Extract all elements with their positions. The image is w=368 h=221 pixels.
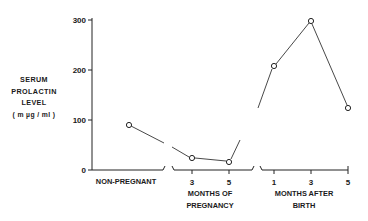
group-label-pregnancy: PREGNANCY bbox=[186, 201, 233, 210]
x-axis-segment-pregnancy bbox=[172, 166, 254, 170]
data-point bbox=[271, 63, 276, 68]
y-tick-label: 0 bbox=[82, 166, 87, 175]
y-tick-label: 300 bbox=[73, 16, 87, 25]
data-point bbox=[308, 18, 313, 23]
data-point bbox=[189, 155, 194, 160]
x-tick-label: 3 bbox=[309, 178, 314, 187]
y-tick-label: 200 bbox=[73, 66, 87, 75]
group-label-after-birth: MONTHS AFTER bbox=[275, 189, 334, 198]
group-label-nonpregnant: NON-PREGNANT bbox=[96, 177, 157, 186]
chart-plot: 300 200 100 0 3 5 1 3 5 NON-PREGNANT MON… bbox=[0, 0, 368, 221]
x-tick-label: 5 bbox=[346, 178, 351, 187]
data-series-line bbox=[131, 23, 347, 161]
x-axis-segment-after-birth bbox=[260, 166, 348, 170]
group-label-after-birth: BIRTH bbox=[293, 201, 316, 210]
data-point bbox=[226, 159, 231, 164]
x-tick-label: 1 bbox=[272, 178, 277, 187]
data-point bbox=[126, 122, 131, 127]
group-label-pregnancy: MONTHS OF bbox=[188, 189, 233, 198]
x-group-labels: NON-PREGNANT MONTHS OF PREGNANCY MONTHS … bbox=[96, 177, 334, 210]
data-point bbox=[345, 105, 350, 110]
x-axis-segment-nonpregnant bbox=[92, 166, 165, 170]
x-tick-labels: 3 5 1 3 5 bbox=[190, 178, 351, 187]
x-tick-label: 5 bbox=[227, 178, 232, 187]
x-axis bbox=[92, 166, 348, 174]
y-tick-label: 100 bbox=[73, 116, 87, 125]
x-tick-label: 3 bbox=[190, 178, 195, 187]
y-ticks: 300 200 100 0 bbox=[73, 16, 92, 175]
